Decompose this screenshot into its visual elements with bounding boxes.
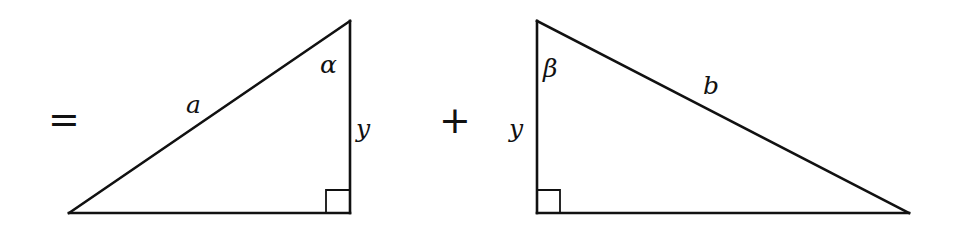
plus-sign: + — [439, 101, 471, 139]
label-angle-beta: β — [543, 56, 557, 81]
label-left-side-y: y — [356, 116, 370, 141]
left-right-angle-marker — [326, 190, 350, 213]
triangle-decomposition-diagram: = + a α y β b y — [0, 0, 955, 236]
right-triangle — [537, 21, 909, 213]
right-right-angle-marker — [537, 190, 560, 213]
label-hypotenuse-b: b — [703, 73, 719, 98]
label-right-side-y: y — [509, 116, 523, 141]
equals-sign: = — [48, 100, 80, 138]
left-triangle-hypotenuse-a — [69, 21, 350, 213]
label-hypotenuse-a: a — [186, 92, 201, 117]
diagram-svg — [0, 0, 955, 236]
label-angle-alpha: α — [320, 52, 337, 77]
right-triangle-hypotenuse-b — [537, 21, 909, 213]
left-triangle — [69, 21, 350, 213]
